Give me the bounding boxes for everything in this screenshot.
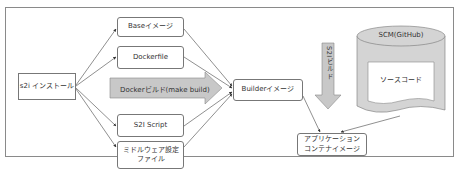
app-container-image-node: アプリケーション コンテナイメージ [297, 133, 367, 156]
s2i-install-node: s2i インストール [18, 73, 76, 100]
builder-image-node: Builderイメージ [233, 79, 303, 101]
docker-build-label: Dockerビルド(make build) [120, 84, 210, 94]
base-image-node: Baseイメージ [117, 17, 184, 37]
s2i-build-label: S2Iビルド [324, 46, 334, 80]
dockerfile-node: Dockerfile [117, 46, 184, 69]
middleware-config-node: ミドルウェア設定 ファイル [117, 141, 184, 169]
source-code-label: ソースコード [368, 74, 434, 84]
s2i-script-node: S2I Script [117, 114, 184, 137]
scm-label: SCM(GitHub) [357, 31, 445, 39]
